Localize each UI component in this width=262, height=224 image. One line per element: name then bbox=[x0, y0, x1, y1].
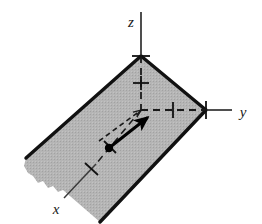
coordinate-diagram-svg: z y x bbox=[0, 0, 262, 224]
z-axis-label: z bbox=[127, 14, 134, 30]
shaded-plane bbox=[24, 56, 206, 222]
y-axis-label: y bbox=[238, 104, 247, 120]
x-axis-label: x bbox=[52, 201, 60, 217]
vector-base-point bbox=[105, 144, 113, 152]
figure-canvas: z y x bbox=[0, 0, 262, 224]
